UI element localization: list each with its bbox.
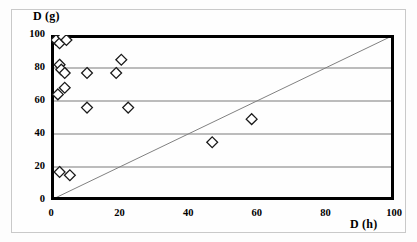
data-point-10 — [82, 102, 93, 113]
identity-reference-line — [51, 35, 394, 200]
reference-line-identity — [51, 35, 394, 200]
y-tick-label-20: 20 — [17, 160, 45, 171]
x-tick-label-60: 60 — [242, 207, 272, 218]
y-tick-label-0: 0 — [17, 193, 45, 204]
y-tick-label-100: 100 — [17, 28, 45, 39]
x-tick-label-20: 20 — [105, 207, 135, 218]
x-tick-label-80: 80 — [310, 207, 340, 218]
x-tick-label-100: 100 — [379, 207, 409, 218]
data-point-16 — [54, 167, 65, 178]
x-axis-title: D (h) — [350, 217, 377, 232]
y-tick-label-80: 80 — [17, 61, 45, 72]
scatter-chart-figure: D (g) D (h) 100806040200 020406080100 — [0, 0, 417, 242]
data-point-13 — [123, 102, 134, 113]
data-point-12 — [116, 54, 127, 65]
data-point-17 — [64, 170, 75, 181]
y-axis-title: D (g) — [33, 9, 60, 24]
x-tick-label-40: 40 — [173, 207, 203, 218]
data-point-15 — [246, 114, 257, 125]
data-point-9 — [82, 68, 93, 79]
data-point-14 — [207, 137, 218, 148]
data-points-group — [51, 35, 257, 181]
plot-area — [51, 35, 394, 200]
data-point-11 — [111, 68, 122, 79]
x-tick-label-0: 0 — [36, 207, 66, 218]
y-tick-label-40: 40 — [17, 127, 45, 138]
plot-canvas — [51, 35, 394, 200]
y-tick-label-60: 60 — [17, 94, 45, 105]
